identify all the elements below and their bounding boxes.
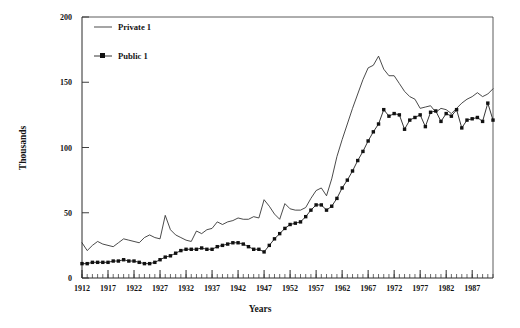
y-tick-label: 0 <box>68 274 72 283</box>
data-point-marker <box>325 208 328 211</box>
data-point-marker <box>148 262 151 265</box>
data-point-marker <box>481 120 484 123</box>
x-tick-label: 1967 <box>360 284 376 293</box>
data-point-marker <box>439 120 442 123</box>
x-axis-minor-ticks <box>82 274 493 278</box>
data-point-marker <box>210 248 213 251</box>
data-point-marker <box>361 150 364 153</box>
data-point-marker <box>320 203 323 206</box>
data-point-marker <box>450 114 453 117</box>
data-point-marker <box>444 112 447 115</box>
data-point-marker <box>216 245 219 248</box>
x-tick-label: 1937 <box>204 284 220 293</box>
x-axis-major-ticks <box>82 270 472 278</box>
x-tick-label: 1972 <box>386 284 402 293</box>
data-point-marker <box>491 118 494 121</box>
data-point-marker <box>106 261 109 264</box>
data-point-marker <box>476 116 479 119</box>
data-point-marker <box>283 227 286 230</box>
data-point-marker <box>262 250 265 253</box>
data-point-marker <box>304 215 307 218</box>
x-tick-label: 1952 <box>282 284 298 293</box>
legend-swatch-public-square-icon <box>100 53 105 58</box>
series-markers-public <box>80 101 494 265</box>
data-point-marker <box>91 261 94 264</box>
x-tick-label: 1957 <box>308 284 324 293</box>
data-point-marker <box>169 254 172 257</box>
x-tick-label: 1932 <box>178 284 194 293</box>
data-point-marker <box>236 241 239 244</box>
data-point-marker <box>330 205 333 208</box>
data-point-marker <box>273 237 276 240</box>
data-point-marker <box>195 248 198 251</box>
data-point-marker <box>434 109 437 112</box>
data-point-marker <box>460 126 463 129</box>
data-point-marker <box>382 108 385 111</box>
data-point-marker <box>408 118 411 121</box>
x-tick-label: 1987 <box>464 284 480 293</box>
data-point-marker <box>190 248 193 251</box>
data-point-marker <box>143 262 146 265</box>
data-point-marker <box>314 203 317 206</box>
x-tick-label: 1962 <box>334 284 350 293</box>
data-point-marker <box>424 125 427 128</box>
data-point-marker <box>465 118 468 121</box>
data-point-marker <box>200 246 203 249</box>
legend-item-public: Public 1 <box>94 51 148 61</box>
data-point-marker <box>377 122 380 125</box>
data-point-marker <box>429 111 432 114</box>
data-point-marker <box>299 220 302 223</box>
y-tick-label: 200 <box>60 13 72 22</box>
data-point-marker <box>112 259 115 262</box>
data-point-marker <box>278 232 281 235</box>
data-point-marker <box>231 241 234 244</box>
x-axis-title: Years <box>249 304 272 314</box>
data-point-marker <box>179 249 182 252</box>
y-axis-title: Thousands <box>18 126 28 171</box>
x-tick-label: 1927 <box>152 284 168 293</box>
data-point-marker <box>340 186 343 189</box>
line-chart-canvas: 050100150200 191219171922192719321937194… <box>0 0 520 328</box>
legend-label-public: Public 1 <box>118 51 148 61</box>
data-point-marker <box>174 252 177 255</box>
x-tick-label: 1982 <box>438 284 454 293</box>
data-point-marker <box>153 261 156 264</box>
data-point-marker <box>252 248 255 251</box>
data-point-marker <box>242 242 245 245</box>
data-point-marker <box>392 112 395 115</box>
data-point-marker <box>413 116 416 119</box>
legend-label-private: Private 1 <box>118 22 151 32</box>
data-point-marker <box>486 101 489 104</box>
data-point-marker <box>122 258 125 261</box>
data-point-marker <box>372 130 375 133</box>
y-tick-label: 150 <box>60 78 72 87</box>
y-axis-ticks <box>82 17 89 278</box>
data-point-marker <box>117 259 120 262</box>
data-point-marker <box>309 208 312 211</box>
data-point-marker <box>226 242 229 245</box>
data-point-marker <box>257 248 260 251</box>
data-point-marker <box>356 159 359 162</box>
data-point-marker <box>387 114 390 117</box>
data-point-marker <box>294 221 297 224</box>
data-point-marker <box>346 178 349 181</box>
data-point-marker <box>470 117 473 120</box>
data-point-marker <box>80 262 83 265</box>
data-point-marker <box>335 197 338 200</box>
chart-figure: 050100150200 191219171922192719321937194… <box>0 0 520 328</box>
y-tick-label: 50 <box>64 209 72 218</box>
x-tick-label: 1917 <box>100 284 116 293</box>
data-point-marker <box>455 108 458 111</box>
data-point-marker <box>184 248 187 251</box>
x-tick-label: 1977 <box>412 284 428 293</box>
data-point-marker <box>138 261 141 264</box>
x-axis-tick-labels: 1912191719221927193219371942194719521957… <box>74 284 480 293</box>
y-axis-tick-labels: 050100150200 <box>60 13 72 283</box>
legend-item-private: Private 1 <box>94 22 151 32</box>
data-point-marker <box>164 255 167 258</box>
data-point-marker <box>288 223 291 226</box>
data-point-marker <box>221 244 224 247</box>
data-point-marker <box>351 169 354 172</box>
data-point-marker <box>205 248 208 251</box>
data-point-marker <box>268 244 271 247</box>
